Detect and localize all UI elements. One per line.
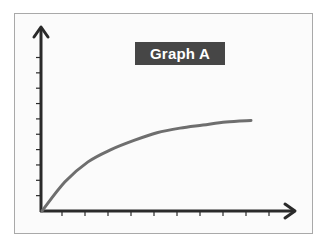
chart-plot-area bbox=[0, 0, 329, 248]
chart-title: Graph A bbox=[135, 42, 225, 65]
x-axis bbox=[40, 204, 295, 218]
data-curve bbox=[42, 120, 251, 211]
